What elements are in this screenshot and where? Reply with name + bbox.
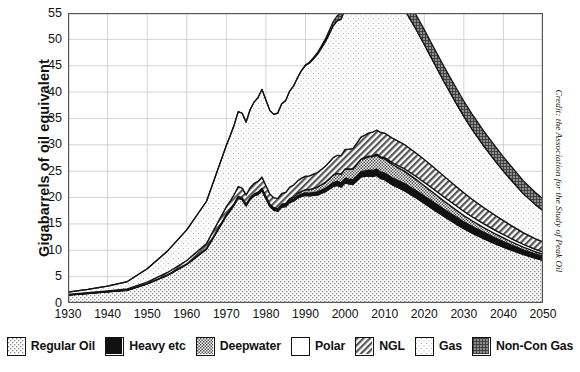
legend-item-polar[interactable]: Polar <box>291 337 345 356</box>
legend-item-non-con-gas[interactable]: Non-Con Gas <box>472 337 573 356</box>
legend-label: NGL <box>379 339 405 353</box>
legend-swatch <box>355 337 374 356</box>
stacked-area-chart <box>68 13 543 303</box>
legend-label: Non-Con Gas <box>496 339 573 353</box>
x-tick-label: 1930 <box>45 308 91 320</box>
legend-item-deepwater[interactable]: Deepwater <box>196 337 281 356</box>
x-tick-label: 2030 <box>441 308 487 320</box>
legend-label: Regular Oil <box>31 339 96 353</box>
legend-item-ngl[interactable]: NGL <box>355 337 405 356</box>
x-tick-label: 1970 <box>203 308 249 320</box>
legend-swatch <box>291 337 310 356</box>
x-tick-label: 1960 <box>164 308 210 320</box>
legend-swatch <box>7 337 26 356</box>
legend-item-gas[interactable]: Gas <box>415 337 462 356</box>
legend-label: Heavy etc <box>129 339 186 353</box>
legend-swatch <box>415 337 434 356</box>
x-tick-label: 1950 <box>124 308 170 320</box>
legend-item-regular-oil[interactable]: Regular Oil <box>7 337 96 356</box>
legend-label: Polar <box>315 339 345 353</box>
credit-text: Credit: the Association for the Study of… <box>554 31 564 331</box>
x-tick-label: 2020 <box>401 308 447 320</box>
x-tick-label: 1980 <box>243 308 289 320</box>
legend-label: Deepwater <box>220 339 281 353</box>
legend-swatch <box>196 337 215 356</box>
x-tick-label: 2010 <box>362 308 408 320</box>
legend-item-heavy-etc[interactable]: Heavy etc <box>105 337 186 356</box>
x-tick-label: 2040 <box>480 308 526 320</box>
legend-label: Gas <box>439 339 462 353</box>
chart-root: Gigabarrels of oil equivalent Credit: th… <box>0 0 580 372</box>
plot-area <box>68 13 543 303</box>
legend-swatch <box>472 337 491 356</box>
chart-legend: Regular OilHeavy etcDeepwaterPolarNGLGas… <box>0 331 580 361</box>
y-tick-label: 0 <box>32 297 62 310</box>
x-tick-label: 1990 <box>283 308 329 320</box>
legend-swatch <box>105 337 124 356</box>
y-axis-title: Gigabarrels of oil equivalent <box>36 18 52 298</box>
x-tick-label: 1940 <box>85 308 131 320</box>
x-tick-label: 2000 <box>322 308 368 320</box>
